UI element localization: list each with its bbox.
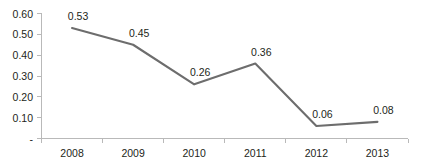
- x-tick-label: 2012: [305, 147, 329, 159]
- x-tick-label: 2009: [121, 147, 145, 159]
- data-label: 0.45: [129, 27, 150, 39]
- chart-canvas: 0.60 0.50 0.40 0.30 0.20 0.10 - 0.53 0.4…: [0, 0, 421, 168]
- data-value-labels: 0.53 0.45 0.26 0.36 0.06 0.08: [68, 10, 394, 120]
- data-label: 0.06: [312, 108, 333, 120]
- x-tick-label: 2008: [60, 147, 84, 159]
- x-axis-tick-labels: 2008 2009 2010 2011 2012 2013: [60, 147, 389, 159]
- data-label: 0.26: [190, 66, 211, 78]
- data-label: 0.36: [251, 46, 272, 58]
- data-label: 0.08: [373, 104, 394, 116]
- y-axis-tick-labels: 0.60 0.50 0.40 0.30 0.20 0.10 -: [13, 8, 34, 145]
- y-axis-ticks: [37, 14, 42, 139]
- data-label: 0.53: [68, 10, 89, 22]
- x-tick-label: 2010: [183, 147, 207, 159]
- y-tick-label: 0.60: [13, 8, 34, 20]
- y-tick-label: 0.50: [13, 28, 34, 40]
- y-tick-label: 0.40: [13, 49, 34, 61]
- y-tick-label: 0.20: [13, 91, 34, 103]
- x-tick-label: 2011: [244, 147, 267, 159]
- x-tick-label: 2013: [366, 147, 390, 159]
- y-tick-label: 0.10: [13, 112, 34, 124]
- y-tick-label: -: [30, 133, 34, 145]
- line-chart: 0.60 0.50 0.40 0.30 0.20 0.10 - 0.53 0.4…: [0, 0, 421, 168]
- x-axis-ticks: [42, 139, 409, 144]
- y-tick-label: 0.30: [13, 70, 34, 82]
